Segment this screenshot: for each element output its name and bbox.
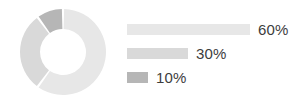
legend-value-0: 60%: [258, 22, 289, 37]
legend-value-1: 30%: [196, 46, 227, 61]
legend-value-2: 10%: [156, 70, 187, 85]
legend-item-2[interactable]: 10%: [127, 65, 187, 89]
legend: 60% 30% 10%: [127, 17, 307, 97]
donut-slice-30%[interactable]: [20, 18, 49, 86]
donut-slice-group: [20, 9, 106, 95]
donut-chart-infographic: 60% 30% 10%: [0, 0, 307, 104]
legend-item-0[interactable]: 60%: [127, 17, 289, 41]
legend-swatch-bar-2: [127, 72, 148, 83]
donut-chart-svg: [18, 7, 108, 97]
legend-swatch-bar-0: [127, 24, 250, 35]
donut-chart: [18, 7, 108, 97]
legend-item-1[interactable]: 30%: [127, 41, 227, 65]
legend-swatch-bar-1: [127, 48, 188, 59]
